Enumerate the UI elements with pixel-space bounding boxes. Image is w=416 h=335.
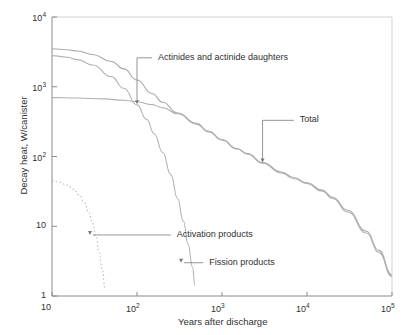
actinides-label: Actinides and actinide daughters (158, 52, 288, 62)
x-tick-label: 104 (296, 302, 310, 314)
chart-canvas (0, 0, 416, 335)
total-label: Total (300, 114, 319, 124)
series-actinides-and-actinide-daughters (52, 98, 392, 277)
actinides-leader (137, 58, 152, 102)
y-axis-title: Decay heat, W/canister (18, 71, 29, 221)
x-tick-label: 10 (41, 302, 51, 312)
x-axis-title: Years after discharge (178, 316, 267, 327)
fission-products-arrow-icon (179, 259, 183, 263)
data-curves (52, 49, 392, 288)
series-total (52, 49, 392, 275)
y-tick-label: 10 (8, 220, 46, 230)
decay-heat-chart: 10102103104105110102103104Actinides and … (0, 0, 416, 335)
x-tick-label: 105 (381, 302, 395, 314)
y-tick-label: 104 (8, 11, 46, 23)
fission-products-label: Fission products (209, 257, 275, 267)
y-tick-label: 1 (8, 290, 46, 300)
x-tick-label: 102 (126, 302, 140, 314)
activation-products-arrow-icon (88, 231, 92, 235)
x-tick-label: 103 (211, 302, 225, 314)
actinides-arrow-icon (135, 100, 139, 104)
series-fission-products (52, 56, 195, 286)
series-activation-products (52, 181, 105, 288)
activation-products-label: Activation products (177, 229, 253, 239)
total-leader (263, 120, 294, 159)
